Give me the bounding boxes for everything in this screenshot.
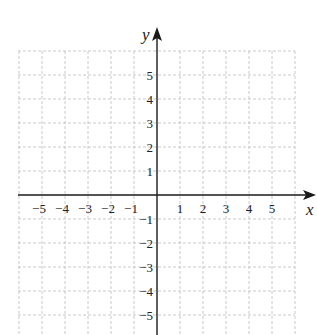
x-tick-label: −4 (55, 201, 69, 216)
x-tick-label: 1 (177, 201, 184, 216)
x-tick-label: −1 (124, 201, 138, 216)
y-tick-label: −5 (139, 308, 153, 323)
x-tick-label: 4 (246, 201, 253, 216)
x-tick-labels: −5−4−3−2−112345 (32, 201, 275, 216)
y-tick-label: −3 (139, 260, 153, 275)
y-tick-label: 2 (147, 140, 154, 155)
y-axis-label: y (140, 25, 150, 44)
x-tick-label: 2 (200, 201, 207, 216)
x-tick-label: −3 (78, 201, 92, 216)
x-axis-label: x (305, 200, 314, 219)
y-tick-label: −1 (139, 212, 153, 227)
y-tick-label: 5 (147, 68, 154, 83)
y-tick-label: −4 (139, 284, 153, 299)
x-tick-label: 5 (269, 201, 276, 216)
coordinate-plane: x y −5−4−3−2−112345 −5−4−3−2−112345 (0, 0, 317, 335)
axes: x y (18, 25, 316, 335)
x-tick-label: −5 (32, 201, 46, 216)
x-tick-label: −2 (101, 201, 115, 216)
y-tick-label: 1 (147, 164, 154, 179)
y-tick-label: 4 (147, 92, 154, 107)
y-tick-label: −2 (139, 236, 153, 251)
y-tick-label: 3 (147, 116, 154, 131)
x-tick-label: 3 (223, 201, 230, 216)
